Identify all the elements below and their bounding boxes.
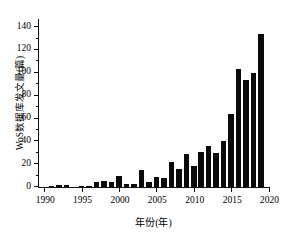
y-minor-tick-50	[36, 129, 39, 130]
bars-layer	[39, 19, 269, 187]
y-tick-label-60: 60	[22, 112, 32, 122]
bar-2006	[161, 178, 167, 187]
y-tick-60: 60	[34, 118, 39, 119]
y-tick-40: 40	[34, 140, 39, 141]
bar-2013	[213, 153, 219, 187]
bar-2005	[154, 177, 160, 187]
y-tick-label-20: 20	[22, 158, 32, 168]
x-tick-label-2020: 2020	[260, 195, 279, 205]
y-tick-20: 20	[34, 163, 39, 164]
bar-2015	[228, 114, 234, 187]
bar-2004	[146, 182, 152, 187]
x-tick-2005: 2005	[156, 187, 157, 192]
y-tick-label-40: 40	[22, 135, 32, 145]
bar-2017	[243, 80, 249, 187]
y-tick-label-80: 80	[22, 89, 32, 99]
y-tick-120: 120	[34, 49, 39, 50]
y-tick-label-100: 100	[17, 66, 31, 76]
x-axis-label: 年份(年)	[38, 214, 269, 229]
y-minor-tick-110	[36, 60, 39, 61]
bar-2002	[131, 184, 137, 187]
bar-chart: WoS数据库发文量(篇) 020406080100120140 19901995…	[0, 0, 290, 234]
bar-2012	[206, 146, 212, 187]
x-tick-2015: 2015	[231, 187, 232, 192]
x-tick-label-2000: 2000	[110, 195, 129, 205]
bar-1996	[86, 186, 92, 187]
bar-2001	[124, 184, 130, 187]
x-tick-1990: 1990	[44, 187, 45, 192]
x-tick-2020: 2020	[269, 187, 270, 192]
y-tick-0: 0	[34, 186, 39, 187]
y-minor-tick-70	[36, 106, 39, 107]
y-tick-100: 100	[34, 72, 39, 73]
plot-area: 020406080100120140 199019952000200520102…	[38, 19, 269, 188]
bar-2014	[221, 141, 227, 187]
bar-2016	[236, 69, 242, 187]
y-minor-tick-30	[36, 152, 39, 153]
x-tick-label-1990: 1990	[36, 195, 55, 205]
y-tick-80: 80	[34, 95, 39, 96]
y-tick-label-140: 140	[17, 21, 31, 31]
x-tick-label-1995: 1995	[73, 195, 92, 205]
bar-2019	[258, 34, 264, 187]
bar-2000	[116, 176, 122, 187]
x-tick-2000: 2000	[119, 187, 120, 192]
bar-2018	[251, 73, 257, 187]
bar-1998	[101, 181, 107, 187]
x-tick-label-2010: 2010	[185, 195, 204, 205]
bar-2007	[169, 162, 175, 187]
bar-2011	[198, 152, 204, 187]
bar-1991	[49, 186, 55, 187]
bar-1999	[109, 182, 115, 187]
y-tick-label-120: 120	[17, 43, 31, 53]
bar-1992	[56, 185, 62, 187]
x-tick-label-2005: 2005	[148, 195, 167, 205]
bar-2008	[176, 169, 182, 187]
y-minor-tick-130	[36, 38, 39, 39]
y-tick-140: 140	[34, 26, 39, 27]
y-minor-tick-90	[36, 83, 39, 84]
bar-1997	[94, 182, 100, 187]
bar-2010	[191, 166, 197, 187]
bar-2009	[184, 154, 190, 187]
bar-2003	[139, 170, 145, 187]
y-tick-label-0: 0	[26, 181, 31, 191]
y-minor-tick-10	[36, 175, 39, 176]
bar-1993	[64, 185, 70, 187]
x-tick-2010: 2010	[194, 187, 195, 192]
x-tick-label-2015: 2015	[223, 195, 242, 205]
x-tick-1995: 1995	[82, 187, 83, 192]
